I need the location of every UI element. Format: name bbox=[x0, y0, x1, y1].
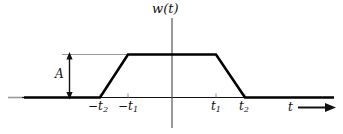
x-tick-label-neg-t2-sub: 2 bbox=[103, 104, 108, 114]
amplitude-arrow bbox=[66, 52, 72, 100]
trapezoidal-waveform-figure: w(t) A −t2 −t1 t1 t2 t bbox=[0, 0, 343, 134]
amplitude-label: A bbox=[55, 68, 64, 80]
x-tick-label-t2: t2 bbox=[239, 100, 249, 113]
waveform-curve bbox=[24, 55, 334, 98]
x-tick-label-neg-t2: −t2 bbox=[88, 100, 108, 113]
x-tick-label-t2-sub: 2 bbox=[244, 104, 249, 114]
y-axis-label: w(t) bbox=[152, 2, 179, 15]
t-axis-arrow bbox=[298, 103, 336, 112]
x-tick-label-neg-t1: −t1 bbox=[118, 100, 138, 113]
x-tick-label-t1-sub: 1 bbox=[216, 104, 221, 114]
x-tick-label-t1: t1 bbox=[211, 100, 221, 113]
x-tick-label-neg-t1-text: −t bbox=[118, 99, 133, 113]
x-tick-label-neg-t2-text: −t bbox=[88, 99, 103, 113]
x-axis-label: t bbox=[288, 101, 293, 113]
x-tick-label-neg-t1-sub: 1 bbox=[133, 104, 138, 114]
